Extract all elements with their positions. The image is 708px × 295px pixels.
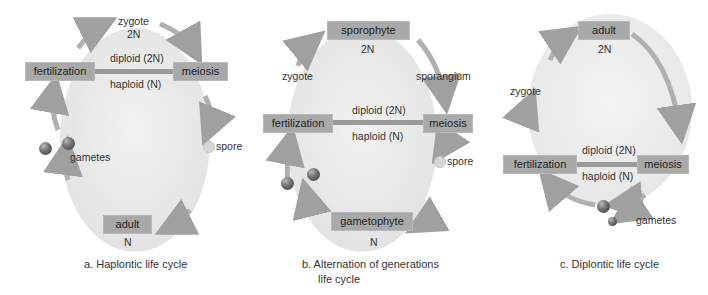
gamete-sphere-icon [307,168,320,181]
gametes-label: gametes [70,151,110,163]
gamete-sphere-icon [39,142,52,155]
meiosis-box: meiosis [423,114,473,133]
ploidy-divider-bar [90,69,180,74]
diploid-label: diploid (2N) [582,144,636,156]
fertilization-box: fertilization [25,62,95,81]
haploid-label: haploid (N) [110,78,161,90]
zygote-label: zygote [282,70,313,82]
gametophyte-box: gametophyte [331,212,413,231]
sporophyte-box: sporophyte [327,21,410,40]
adult-box: adult [578,21,630,40]
caption-alternation-line1: b. Alternation of generations [302,257,439,272]
adult-ploidy: N [124,236,132,248]
ploidy-divider-bar [325,120,425,125]
adult-ploidy: 2N [598,43,611,55]
gamete-sphere-icon [62,137,75,150]
fertilization-box: fertilization [263,114,333,133]
meiosis-box: meiosis [173,62,228,81]
diploid-label: diploid (2N) [110,52,164,64]
haploid-label: haploid (N) [352,130,403,142]
caption-alternation-line2: life cycle [318,272,360,287]
sporophyte-ploidy: 2N [361,43,374,55]
zygote-label: zygote [510,85,541,97]
ploidy-divider-bar [575,162,645,167]
adult-box: adult [103,215,152,234]
gamete-sphere-icon [281,177,294,190]
diploid-label: diploid (2N) [352,104,406,116]
fertilization-box: fertilization [503,155,577,174]
spore-icon [434,156,446,168]
panel-alternation: sporophyte 2N zygote sporangium fertiliz… [240,0,470,295]
spore-label: spore [216,140,242,152]
gametes-label: gametes [636,214,676,226]
gametophyte-ploidy: N [370,236,378,248]
sporangium-label: sporangium [416,70,471,82]
haploid-label: haploid (N) [582,170,633,182]
gamete-sphere-icon [608,217,617,226]
gamete-sphere-icon [597,200,610,213]
spore-icon [203,141,215,153]
zygote-ploidy: 2N [127,28,140,40]
panel-haplontic: zygote 2N fertilization meiosis diploid … [0,0,240,295]
meiosis-box: meiosis [637,155,689,174]
zygote-label: zygote [118,15,149,27]
panel-diplontic: adult 2N zygote fertilization meiosis di… [470,0,708,295]
caption-haplontic: a. Haplontic life cycle [84,257,187,272]
caption-diplontic: c. Diplontic life cycle [560,257,659,272]
